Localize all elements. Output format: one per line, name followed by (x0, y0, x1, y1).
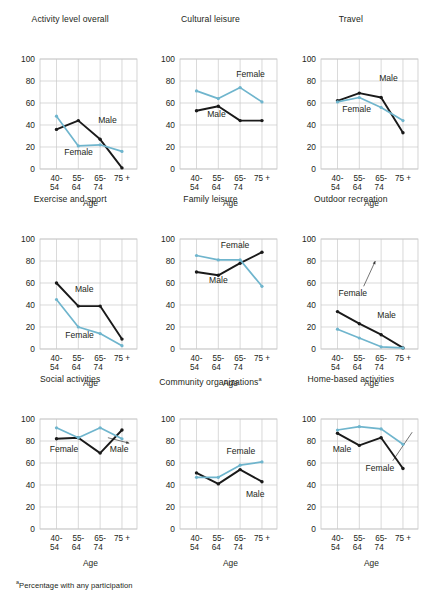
x-axis-label: Age (364, 558, 379, 568)
data-point (77, 119, 80, 122)
data-point (379, 345, 382, 348)
x-tick-label-line2: 64 (72, 543, 82, 552)
series-female (336, 425, 405, 446)
data-point (98, 138, 101, 141)
data-point (336, 428, 339, 431)
y-tick-label: 40 (166, 300, 176, 310)
x-tick-label-line1: 75 + (114, 174, 130, 183)
data-point (261, 480, 264, 483)
y-tick-label: 80 (166, 256, 176, 266)
data-point (379, 106, 382, 109)
data-point (217, 482, 220, 485)
data-point (379, 436, 382, 439)
data-point (195, 109, 198, 112)
y-tick-label: 100 (21, 234, 35, 244)
data-point (55, 437, 58, 440)
series-label-male: Male (75, 284, 94, 294)
data-point (195, 89, 198, 92)
x-tick-label-line1: 55- (72, 354, 84, 363)
x-tick-label-line2: 74 (94, 183, 104, 192)
data-point (261, 100, 264, 103)
y-tick-label: 20 (306, 502, 316, 512)
chart-plot: 02040608010040-5455-6465-7475 +AgeMaleFe… (281, 374, 421, 570)
x-tick-label-line1: 55- (213, 174, 225, 183)
gridlines (321, 59, 418, 169)
chart-plot: 02040608010040-5455-6465-7475 +AgeMaleFe… (0, 374, 140, 570)
gridlines (180, 419, 277, 529)
y-axis-ticks: 020406080100 (161, 234, 175, 354)
data-point (55, 298, 58, 301)
x-axis-ticks: 40-5455-6465-7475 + (50, 354, 130, 372)
data-point (239, 258, 242, 261)
y-tick-label: 20 (26, 322, 36, 332)
small-multiples-grid: Activity level overall02040608010040-545… (0, 14, 421, 570)
x-tick-label-line2: 64 (212, 183, 222, 192)
figure-footnote: aPercentage with any participation (16, 579, 133, 590)
data-point (261, 119, 264, 122)
chart-plot: 02040608010040-5455-6465-7475 +AgeMaleFe… (281, 14, 421, 210)
y-tick-label: 100 (161, 414, 175, 424)
series-label-female: Female (64, 147, 93, 157)
y-tick-label: 60 (26, 458, 36, 468)
data-point (99, 332, 102, 335)
data-point (195, 471, 198, 474)
data-point (336, 328, 339, 331)
series-female (195, 86, 264, 103)
y-tick-label: 80 (26, 256, 36, 266)
y-tick-label: 0 (30, 164, 35, 174)
x-tick-label-line2: 54 (190, 363, 200, 372)
data-point (261, 460, 264, 463)
series-male (55, 119, 124, 170)
y-tick-label: 80 (306, 256, 316, 266)
x-tick-label-line1: 65- (235, 174, 247, 183)
x-axis-ticks: 40-5455-6465-7475 + (331, 354, 411, 372)
x-tick-label-line2: 54 (50, 363, 60, 372)
gridlines (321, 419, 418, 529)
x-tick-label-line1: 65- (235, 534, 247, 543)
y-tick-label: 20 (166, 142, 176, 152)
y-tick-label: 60 (166, 458, 176, 468)
x-tick-label-line2: 64 (212, 363, 222, 372)
x-tick-label-line1: 55- (213, 354, 225, 363)
chart-panel: Outdoor recreation02040608010040-5455-64… (281, 194, 421, 374)
x-tick-label-line1: 75 + (114, 534, 130, 543)
data-point (401, 119, 404, 122)
series-male (195, 251, 264, 277)
data-point (77, 325, 80, 328)
y-axis-ticks: 020406080100 (302, 54, 316, 174)
chart-plot: 02040608010040-5455-6465-7475 +AgeMaleFe… (140, 374, 280, 570)
y-tick-label: 40 (26, 120, 36, 130)
data-point (195, 270, 198, 273)
x-tick-label-line1: 75 + (395, 534, 411, 543)
y-axis-ticks: 020406080100 (302, 234, 316, 354)
y-tick-label: 20 (26, 142, 36, 152)
x-axis-label: Age (83, 558, 98, 568)
chart-panel: Social activities02040608010040-5455-646… (0, 374, 140, 570)
data-point (99, 143, 102, 146)
y-tick-label: 0 (171, 524, 176, 534)
data-point (357, 91, 360, 94)
y-tick-label: 100 (21, 54, 35, 64)
data-point (379, 333, 382, 336)
chart-panel: Travel02040608010040-5455-6465-7475 +Age… (281, 14, 421, 194)
x-tick-label-line1: 75 + (395, 354, 411, 363)
chart-panel: Activity level overall02040608010040-545… (0, 14, 140, 194)
series-label-female: Female (221, 240, 250, 250)
x-tick-label-line1: 75 + (254, 354, 270, 363)
data-point (239, 119, 242, 122)
gridlines (321, 239, 418, 349)
data-point (357, 322, 360, 325)
x-tick-label-line1: 55- (72, 534, 84, 543)
y-tick-label: 40 (166, 480, 176, 490)
x-tick-label-line2: 74 (234, 363, 244, 372)
series-label-female: Female (338, 288, 367, 298)
y-tick-label: 20 (166, 502, 176, 512)
chart-panel: Community organizationsa02040608010040-5… (140, 374, 280, 570)
y-tick-label: 40 (166, 120, 176, 130)
data-point (379, 96, 382, 99)
y-tick-label: 80 (26, 76, 36, 86)
data-point (357, 444, 360, 447)
data-point (401, 131, 404, 134)
data-point (239, 464, 242, 467)
data-point (217, 476, 220, 479)
